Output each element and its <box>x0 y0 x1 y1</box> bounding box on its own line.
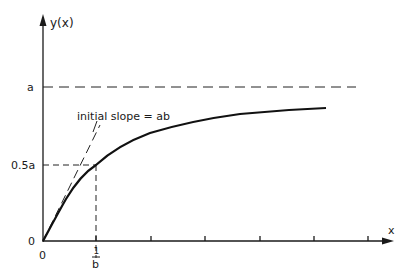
y-axis-arrow-icon <box>40 14 47 26</box>
saturation-curve-diagram: y(x) x a 0.5a 0 0 1 b initial slope = ab <box>0 0 405 280</box>
x-tick-inverse-b-label: 1 b <box>92 246 100 271</box>
x-axis-label: x <box>388 224 395 237</box>
y-axis-label: y(x) <box>50 16 74 30</box>
fraction-numerator: 1 <box>94 246 100 256</box>
y-axis <box>40 14 47 242</box>
fraction-denominator: b <box>92 258 99 271</box>
initial-slope-annotation: initial slope = ab <box>77 110 170 123</box>
response-curve <box>43 108 326 241</box>
x-axis-arrow-icon <box>382 238 394 245</box>
y-tick-origin-label: 0 <box>28 235 35 248</box>
x-tick-origin-label: 0 <box>39 249 46 262</box>
y-tick-half-label: 0.5a <box>11 159 35 172</box>
y-tick-a-label: a <box>27 81 34 94</box>
